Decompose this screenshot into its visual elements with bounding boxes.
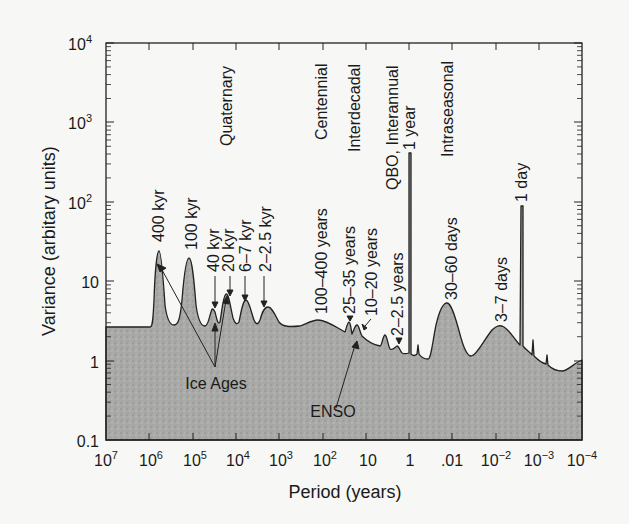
- band-label-intraseasonal: Intraseasonal: [439, 61, 456, 157]
- peak-label-1day: 1 day: [513, 163, 530, 202]
- y-tick-label: 10: [81, 274, 99, 291]
- x-tick-label: 10: [359, 452, 377, 469]
- peak-label-100kyr: 100 kyr: [183, 197, 200, 250]
- band-label-centennial: Centennial: [313, 64, 330, 141]
- band-label-qbo-interannual: QBO, Interannual: [384, 65, 401, 190]
- y-tick-label: 0.1: [77, 433, 99, 450]
- peak-label-20kyr: 20 kyr: [220, 228, 237, 272]
- peak-label-2-2.5years: 2–2.5 years: [389, 252, 406, 336]
- x-tick-label: 10−3: [524, 449, 554, 469]
- x-tick-label: 1: [406, 452, 415, 469]
- x-tick-label: 107: [94, 449, 118, 469]
- x-tick-label: 10−4: [567, 449, 597, 469]
- x-tick-label: 103: [269, 449, 293, 469]
- peak-label-6-7kyr: 6–7 kyr: [237, 219, 254, 272]
- peak-label-2-2.5kyr: 2–2.5 kyr: [257, 206, 274, 272]
- y-tick-label: 1: [90, 354, 99, 371]
- x-tick-label: 104: [226, 449, 250, 469]
- peak-label-30-60days: 30–60 days: [443, 217, 460, 300]
- peak-label-10-20years: 10–20 years: [363, 228, 380, 316]
- variance-spectrum-chart: 104 103 102 10 1 0.1 107 106 105 104 103…: [0, 0, 629, 524]
- y-tick-label: 102: [68, 192, 92, 212]
- peak-label-1year: 1 year: [401, 105, 418, 150]
- annotation-ice-ages: Ice Ages: [185, 375, 246, 392]
- y-axis-title: Variance (arbitary units): [39, 146, 59, 336]
- x-tick-labels: 107 106 105 104 103 102 10 1 .01 10−2 10…: [94, 449, 597, 469]
- peak-label-100-400years: 100–400 years: [313, 208, 330, 314]
- x-tick-label: 102: [313, 449, 337, 469]
- peak-label-25-35years: 25–35 years: [341, 226, 358, 314]
- band-label-quaternary: Quaternary: [218, 66, 235, 146]
- y-tick-labels: 104 103 102 10 1 0.1: [68, 33, 99, 450]
- x-tick-label: 10−2: [481, 449, 511, 469]
- x-tick-label: 105: [183, 449, 207, 469]
- peak-label-3-7days: 3–7 days: [493, 257, 510, 322]
- x-tick-label: .01: [441, 452, 463, 469]
- y-tick-label: 103: [68, 112, 92, 132]
- x-axis-title: Period (years): [288, 482, 401, 502]
- y-tick-label: 104: [68, 33, 92, 53]
- peak-label-400kyr: 400 kyr: [150, 189, 167, 242]
- band-label-interdecadal: Interdecadal: [346, 64, 363, 152]
- x-tick-label: 106: [139, 449, 163, 469]
- peak-labels: 400 kyr 100 kyr 40 kyr 20 kyr 6–7 kyr 2–…: [150, 105, 530, 336]
- band-labels: Quaternary Centennial Interdecadal QBO, …: [218, 61, 456, 190]
- annotation-enso: ENSO: [310, 403, 355, 420]
